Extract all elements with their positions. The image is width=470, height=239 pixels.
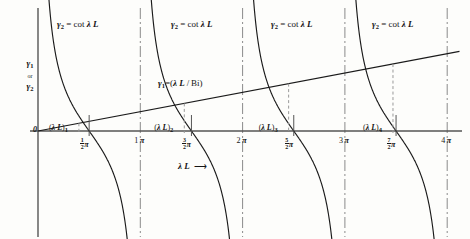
x-tick-label-5: 3 π	[339, 137, 349, 145]
x-tick-label-4: 52π	[285, 137, 293, 150]
y-axis-label: γ1 or γ2	[20, 58, 40, 93]
plot-canvas	[0, 0, 470, 239]
y-axis-label-or: or	[28, 73, 33, 79]
cot-curve-label-2: γ2 = cot λ L	[171, 20, 213, 30]
x-tick-label-7: 4 π	[441, 137, 451, 145]
figure-root: γ1 or γ2 0 λ L ⟶ γ2 = cot λ Lγ2 = cot λ …	[0, 0, 470, 239]
cot-curve-label-1: γ2 = cot λ L	[57, 20, 99, 30]
x-tick-label-2: 32π	[182, 137, 190, 150]
gamma1-line-label: γ1=(λ L / Bi)	[158, 79, 202, 89]
x-axis-title: λ L ⟶	[178, 162, 207, 171]
x-tick-label-1: 1 π	[134, 137, 144, 145]
intersection-label-2: (λ L)2	[154, 124, 173, 133]
cot-curve-label-4: γ2 = cot λ L	[372, 20, 414, 30]
cot-curve-label-3: γ2 = cot λ L	[271, 20, 313, 30]
origin-label: 0	[33, 126, 37, 134]
x-tick-label-6: 72π	[387, 137, 395, 150]
intersection-label-4: (λ L)4	[363, 124, 382, 133]
y-axis-label-gamma2: γ2	[27, 81, 34, 91]
x-tick-label-0: 12π	[80, 137, 88, 150]
intersection-label-1: (λ L)1	[49, 124, 68, 133]
x-axis-arrow-icon: ⟶	[192, 161, 207, 171]
intersection-label-3: (λ L)3	[259, 124, 278, 133]
y-axis-label-gamma1: γ1	[27, 58, 34, 68]
x-tick-label-3: 2 π	[237, 137, 247, 145]
